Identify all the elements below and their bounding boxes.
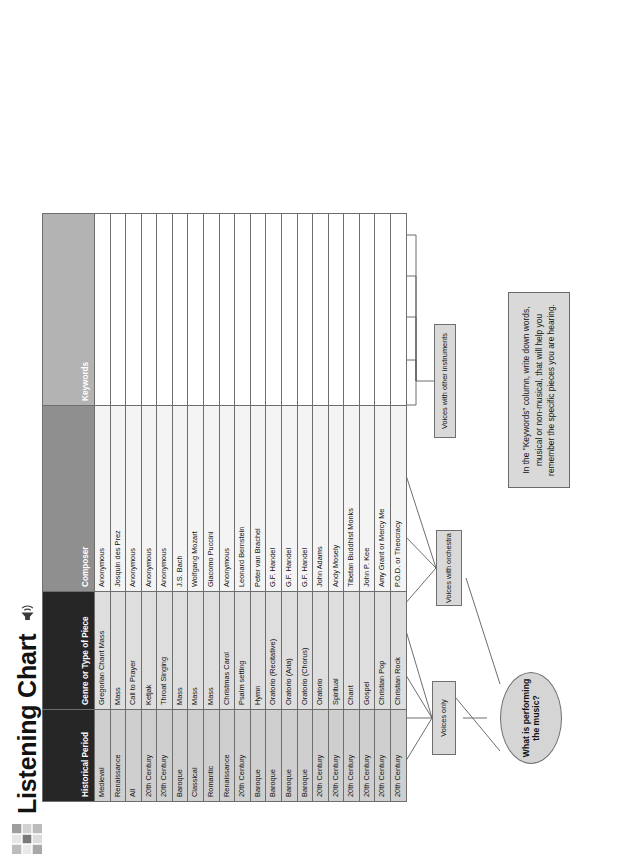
cell-composer: G.F. Handel [281,406,297,592]
cell-genre: Psalm setting [235,592,251,710]
cell-genre: Oratorio [313,592,329,710]
screenshot-canvas: Listening Chart [0,0,642,868]
cell-genre: Mass [204,592,220,710]
cell-period: Baroque [250,710,266,802]
cell-composer: Leonard Bernstein [235,406,251,592]
table-row: 20th CenturyThroat SingingAnonymous [157,214,173,802]
cell-period: 20th Century [344,710,360,802]
table-row: 20th CenturyPsalm settingLeonard Bernste… [235,214,251,802]
cell-period: 20th Century [235,710,251,802]
page-title: Listening Chart [13,634,42,814]
cell-keywords[interactable] [204,214,220,406]
cell-keywords[interactable] [188,214,204,406]
cell-composer: Anonymous [157,406,173,592]
cell-genre: Chant [344,592,360,710]
table-row: MedievalGregorian Chant MassAnonymous [95,214,111,802]
cell-keywords[interactable] [375,214,391,406]
table-row: RenaissanceMassJosquin des Prez [110,214,126,802]
cell-composer: J.S. Bach [172,406,188,592]
cell-composer: Anonymous [219,406,235,592]
branch-voices-with-other-instruments[interactable]: Voices with other instruments [434,324,456,438]
branch-voices-only[interactable]: Voices only [432,681,456,755]
cell-composer: John P. Kee [359,406,375,592]
cell-period: Renaissance [219,710,235,802]
cell-composer: Tibetan Buddhist Monks [344,406,360,592]
cell-genre: Mass [110,592,126,710]
cell-period: Romantic [204,710,220,802]
cell-period: 20th Century [359,710,375,802]
cell-composer: John Adams [313,406,329,592]
listening-chart-poster: Listening Chart [0,0,642,868]
branch-voices-with-orchestra[interactable]: Voices with orchestra [436,530,462,606]
listening-data-table: Historical Period Genre or Type of Piece… [42,213,407,802]
table-body: MedievalGregorian Chant MassAnonymousRen… [95,214,407,802]
cell-keywords[interactable] [172,214,188,406]
keywords-instruction-note: In the "Keywords" column, write down wor… [508,292,570,488]
table-row: ClassicalMassWolfgang Mozart [188,214,204,802]
cell-genre: Oratorio (Chorus) [297,592,313,710]
cell-period: 20th Century [390,710,406,802]
cell-period: 20th Century [157,710,173,802]
cell-genre: Ketjak [141,592,157,710]
cell-genre: Oratorio (Recitative) [266,592,282,710]
cell-keywords[interactable] [219,214,235,406]
cell-keywords[interactable] [328,214,344,406]
cell-period: 20th Century [141,710,157,802]
cell-composer: Peter van Brachel [250,406,266,592]
cell-genre: Gospel [359,592,375,710]
cell-keywords[interactable] [250,214,266,406]
root-node-what-is-performing[interactable]: What is performing the music? [500,672,562,764]
cell-keywords[interactable] [95,214,111,406]
cell-period: Baroque [172,710,188,802]
cell-genre: Throat Singing [157,592,173,710]
cell-composer: Anonymous [126,406,142,592]
table-row: 20th CenturyChristian RockP.O.D. or Theo… [390,214,406,802]
cell-keywords[interactable] [313,214,329,406]
cell-genre: Hymn [250,592,266,710]
cell-composer: Wolfgang Mozart [188,406,204,592]
cell-composer: G.F. Handel [266,406,282,592]
cell-keywords[interactable] [126,214,142,406]
cell-keywords[interactable] [390,214,406,406]
grid-table-icon [12,824,42,854]
cell-keywords[interactable] [141,214,157,406]
table-row: RomanticMassGiacomo Puccini [204,214,220,802]
cell-genre: Christian Pop [375,592,391,710]
table-row: AllCall to PrayerAnonymous [126,214,142,802]
cell-keywords[interactable] [297,214,313,406]
cell-keywords[interactable] [110,214,126,406]
table-row: 20th CenturyKetjakAnonymous [141,214,157,802]
speaker-sound-icon [18,603,37,622]
cell-period: Baroque [297,710,313,802]
cell-genre: Christian Rock [390,592,406,710]
table-row: BaroqueOratorio (Recitative)G.F. Handel [266,214,282,802]
cell-keywords[interactable] [235,214,251,406]
table-row: 20th CenturyOratorioJohn Adams [313,214,329,802]
cell-period: 20th Century [375,710,391,802]
cell-composer: P.O.D. or Theocracy [390,406,406,592]
page-header: Listening Chart [12,603,42,854]
cell-period: Classical [188,710,204,802]
table-row: 20th CenturyChantTibetan Buddhist Monks [344,214,360,802]
cell-composer: Anonymous [95,406,111,592]
col-header-keywords: Keywords [43,214,95,406]
cell-period: 20th Century [328,710,344,802]
cell-keywords[interactable] [281,214,297,406]
cell-period: Medieval [95,710,111,802]
table-row: BaroqueMassJ.S. Bach [172,214,188,802]
table-row: BaroqueHymnPeter van Brachel [250,214,266,802]
cell-period: Renaissance [110,710,126,802]
cell-keywords[interactable] [157,214,173,406]
cell-period: Baroque [281,710,297,802]
cell-keywords[interactable] [359,214,375,406]
cell-genre: Oratorio (Aria) [281,592,297,710]
cell-composer: Giacomo Puccini [204,406,220,592]
table-header-row: Historical Period Genre or Type of Piece… [43,214,95,802]
cell-keywords[interactable] [266,214,282,406]
cell-period: Baroque [266,710,282,802]
cell-genre: Mass [188,592,204,710]
cell-keywords[interactable] [344,214,360,406]
cell-genre: Christmas Carol [219,592,235,710]
cell-composer: Andy Mosely [328,406,344,592]
cell-genre: Mass [172,592,188,710]
